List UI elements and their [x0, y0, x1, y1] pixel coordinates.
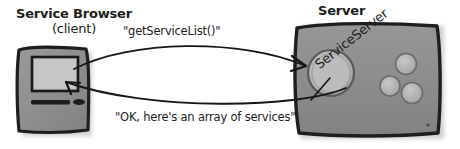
server-dial-2: [380, 76, 400, 96]
client-title: Service Browser (client): [8, 6, 140, 36]
server-box-icon: [295, 24, 440, 136]
request-message-label: "getServiceList()": [123, 24, 220, 38]
client-title-text: Service Browser: [16, 6, 132, 21]
diagram-canvas: Service Browser (client) Server "getServ…: [0, 0, 460, 149]
server-dial-1: [396, 54, 417, 75]
response-message-label: "OK, here's an array of services": [115, 110, 295, 124]
client-computer-icon: [17, 47, 89, 132]
server-dial-3: [402, 83, 423, 104]
request-arrow-path: [74, 46, 306, 69]
client-subtitle-text: (client): [8, 21, 140, 36]
server-title: Server: [318, 3, 365, 18]
